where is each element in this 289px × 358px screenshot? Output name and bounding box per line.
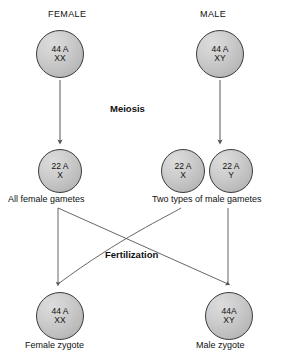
cell-female-gamete-sex-chromosome: X [57,171,63,180]
header-label-male: MALE [200,9,226,19]
cell-male-gamete-x: 22 A X [161,149,205,193]
fertilization-line-female-to-male-zygote [58,208,228,284]
cell-male-zygote: 44A XY [205,292,253,340]
cell-male-gamete-y-sex-chromosome: Y [228,171,234,180]
cell-female-zygote-sex-chromosomes: XX [54,316,65,325]
stage-label-meiosis: Meiosis [110,103,145,114]
caption-male-zygote: Male zygote [196,340,245,350]
header-label-female: FEMALE [48,9,86,19]
cell-female-parent-sex-chromosomes: XX [54,54,65,63]
caption-female-zygote: Female zygote [25,340,84,350]
fertilization-line-malex-to-female-zygote [58,208,181,284]
cell-male-gamete-y: 22 A Y [209,149,253,193]
cell-female-zygote: 44 A XX [36,292,84,340]
cell-male-gamete-x-sex-chromosome: X [180,171,186,180]
cell-female-parent: 44 A XX [36,30,84,78]
cell-male-parent: 44 A XY [196,30,244,78]
stage-label-fertilization: Fertilization [105,249,158,260]
caption-male-gametes: Two types of male gametes [152,194,262,204]
sex-determination-diagram: FEMALE MALE 44 A XX 44 A XY Meiosis 22 A… [0,0,289,358]
cell-female-gamete: 22 A X [38,149,82,193]
caption-female-gametes: All female gametes [8,194,85,204]
cell-male-zygote-sex-chromosomes: XY [223,316,234,325]
cell-male-parent-sex-chromosomes: XY [214,54,225,63]
